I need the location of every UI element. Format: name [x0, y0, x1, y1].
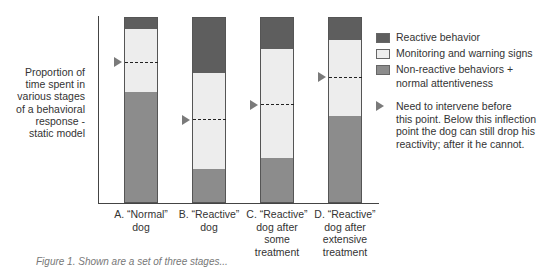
- triangle-marker-icon: [114, 57, 122, 67]
- ylabel-line: of a behavioral: [0, 103, 85, 115]
- legend-label: Reactive behavior: [396, 31, 480, 43]
- x-tick-label-line: treatment: [305, 246, 385, 259]
- legend-label-cont: normal attentiveness: [376, 76, 533, 90]
- legend-item-nonreactive: Non-reactive behaviors +: [376, 62, 533, 78]
- bar-b: [192, 17, 226, 203]
- threshold-dashed-line: [125, 62, 158, 63]
- bar-segment-nonreactive: [125, 92, 157, 202]
- triangle-marker-icon: [182, 115, 190, 125]
- legend-item-reactive: Reactive behavior: [376, 30, 533, 46]
- ylabel-line: static model: [0, 127, 85, 139]
- legend: Reactive behavior Monitoring and warning…: [376, 30, 533, 90]
- note-line: point the dog can still drop his: [396, 125, 545, 138]
- note-line: Need to intervene before: [396, 100, 545, 113]
- bar-segment-nonreactive: [193, 169, 225, 202]
- triangle-marker-icon: [318, 72, 326, 82]
- threshold-dashed-line: [261, 104, 294, 105]
- note-line: reactivity; after it he cannot.: [396, 138, 545, 151]
- x-tick-label-line: extensive: [305, 233, 385, 246]
- ylabel-line: time spent in: [0, 78, 85, 90]
- x-tick-label: D. “Reactive”dog afterextensivetreatment: [305, 208, 385, 258]
- figure-caption: Figure 1. Shown are a set of three stage…: [36, 256, 228, 267]
- triangle-marker-icon: [376, 101, 384, 111]
- x-tick-label-line: dog after: [305, 221, 385, 234]
- legend-item-monitoring: Monitoring and warning signs: [376, 46, 533, 62]
- ylabel-line: various stages: [0, 90, 85, 102]
- bar-segment-monitor: [125, 29, 157, 92]
- bar-segment-reactive: [193, 18, 225, 73]
- threshold-note-text: Need to intervene before this point. Bel…: [396, 100, 545, 150]
- bar-segment-monitor: [329, 40, 361, 115]
- legend-label: Monitoring and warning signs: [396, 47, 533, 59]
- legend-label: Non-reactive behaviors +: [396, 63, 513, 75]
- bar-segment-nonreactive: [261, 158, 293, 202]
- x-axis-line: [98, 203, 379, 204]
- bar-segment-monitor: [193, 73, 225, 169]
- legend-swatch-nonreactive: [376, 65, 390, 75]
- legend-swatch-reactive: [376, 33, 390, 43]
- threshold-dashed-line: [193, 119, 226, 120]
- ylabel-line: response -: [0, 115, 85, 127]
- bar-segment-reactive: [329, 18, 361, 40]
- bar-a: [124, 17, 158, 203]
- bar-c: [260, 17, 294, 203]
- y-axis-line: [98, 16, 99, 204]
- y-axis-label: Proportion of time spent in various stag…: [0, 66, 85, 139]
- legend-swatch-monitoring: [376, 49, 390, 59]
- triangle-marker-icon: [250, 100, 258, 110]
- ylabel-line: Proportion of: [0, 66, 85, 78]
- x-tick-label-line: D. “Reactive”: [305, 208, 385, 221]
- bar-segment-nonreactive: [329, 116, 361, 202]
- legend-threshold-note: Need to intervene before this point. Bel…: [376, 100, 384, 113]
- bar-d: [328, 17, 362, 203]
- note-line: this point. Below this inflection: [396, 113, 545, 126]
- bar-segment-reactive: [261, 18, 293, 49]
- bar-segment-reactive: [125, 18, 157, 29]
- threshold-dashed-line: [329, 77, 362, 78]
